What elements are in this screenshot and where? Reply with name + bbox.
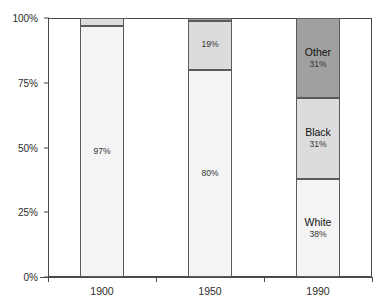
bar-segment[interactable]: Other31%	[296, 18, 340, 98]
segment-value-label: 80%	[201, 168, 218, 179]
segment-value-label: 19%	[201, 39, 218, 50]
segment-value-label: 97%	[93, 146, 110, 157]
x-axis-tick-label: 1950	[198, 285, 221, 297]
segment-value-label: 38%	[309, 229, 326, 240]
bar-group: 97%	[48, 18, 156, 277]
segment-name-label: Black	[305, 126, 331, 139]
x-axis-tick-mark	[264, 277, 265, 282]
x-axis-line	[40, 277, 372, 278]
x-axis-tick-label: 1900	[90, 285, 113, 297]
bar-group: 80%19%	[156, 18, 264, 277]
y-axis-tick-label: 50%	[18, 142, 38, 153]
stacked-bar-chart: 0%25%50%75%100% 97%80%19%White38%Black31…	[0, 0, 384, 303]
y-axis-tick-label: 100%	[12, 13, 38, 24]
bar-segment[interactable]: Black31%	[296, 98, 340, 178]
stacked-bar[interactable]: White38%Black31%Other31%	[296, 18, 340, 277]
segment-value-label: 31%	[309, 59, 326, 70]
bars-layer: 97%80%19%White38%Black31%Other31%	[48, 18, 372, 277]
x-axis-tick-mark	[372, 277, 373, 282]
y-axis-tick-label: 25%	[18, 207, 38, 218]
bar-segment[interactable]: 97%	[80, 26, 124, 277]
x-axis-tick-mark	[156, 277, 157, 282]
bar-group: White38%Black31%Other31%	[264, 18, 372, 277]
y-axis-tick-label: 0%	[24, 272, 38, 283]
stacked-bar[interactable]: 97%	[80, 18, 124, 277]
bar-segment[interactable]: White38%	[296, 179, 340, 277]
bar-segment[interactable]: 80%	[188, 70, 232, 277]
y-axis-tick-label: 75%	[18, 77, 38, 88]
bar-segment[interactable]: 19%	[188, 21, 232, 70]
bar-segment[interactable]	[80, 18, 124, 26]
x-axis-tick-label: 1990	[306, 285, 329, 297]
y-axis: 0%25%50%75%100%	[0, 18, 48, 277]
segment-name-label: White	[305, 216, 332, 229]
segment-name-label: Other	[305, 46, 331, 59]
bar-segment[interactable]	[188, 18, 232, 21]
x-axis-tick-mark	[48, 277, 49, 282]
segment-value-label: 31%	[309, 139, 326, 150]
stacked-bar[interactable]: 80%19%	[188, 18, 232, 277]
